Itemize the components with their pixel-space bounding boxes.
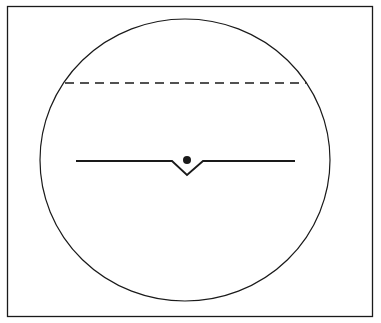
diagram-canvas xyxy=(0,0,381,323)
center-dot xyxy=(183,156,191,164)
